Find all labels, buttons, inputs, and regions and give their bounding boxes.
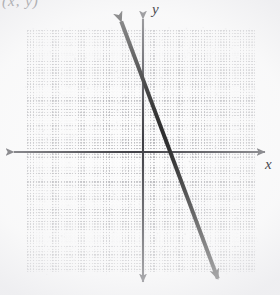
x-axis-label: x — [265, 156, 272, 173]
line-segment — [121, 21, 218, 278]
y-axis-label: y — [152, 1, 159, 18]
plotted-line — [121, 21, 218, 278]
header-fragment: (x, y) — [2, 0, 39, 10]
axes-and-line-layer — [0, 0, 280, 295]
graph-figure: (x, y) y x — [0, 0, 280, 295]
